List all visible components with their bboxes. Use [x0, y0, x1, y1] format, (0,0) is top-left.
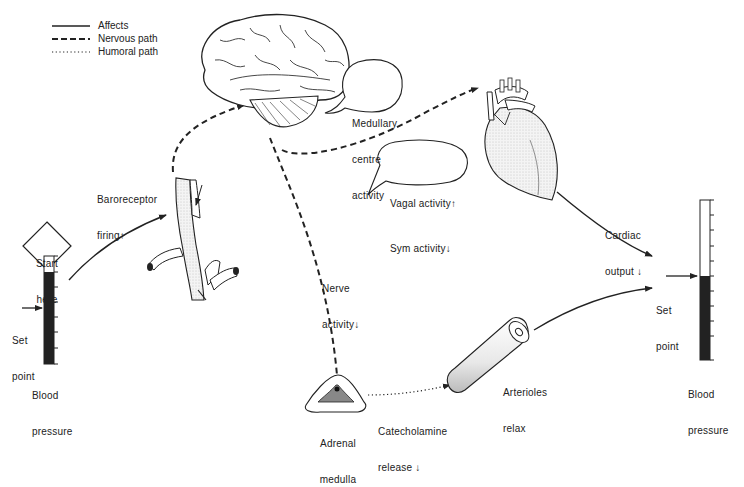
adrenal-medulla-label: Adrenal medulla	[312, 414, 364, 487]
sym-activity-text: Sym activity↓	[390, 241, 456, 256]
heart-illustration	[485, 78, 557, 200]
baroreceptor-line1: Baroreceptor	[97, 194, 157, 206]
cardiac-output-label: Cardiac output ↓	[605, 206, 642, 290]
arterioles-line2: relax	[503, 423, 547, 435]
nerve-line2: activity↓	[322, 319, 359, 331]
medullary-line2: centre	[352, 154, 397, 166]
medullary-line1: Medullary	[352, 118, 397, 130]
cardiac-line2: output ↓	[605, 266, 642, 278]
carotid-to-brain-nervous-path	[173, 105, 244, 172]
adrenal-gland-illustration	[305, 375, 365, 412]
set-point-line2: point	[656, 341, 679, 353]
baroreceptor-label: Baroreceptor firing↑	[97, 170, 157, 254]
start-label-line1: Start	[31, 258, 63, 270]
vagal-activity-text: Vagal activity↑	[390, 196, 456, 211]
adrenal-line1: Adrenal	[312, 438, 364, 450]
caption-line2: pressure	[688, 425, 729, 437]
caption-line2: pressure	[32, 426, 73, 438]
set-point-line1: Set	[12, 335, 35, 347]
baroreceptor-line2: firing↑	[97, 230, 157, 242]
catechol-line2: release ↓	[378, 462, 447, 474]
adrenal-line2: medulla	[312, 474, 364, 486]
vagal-sym-label: Vagal activity↑ Sym activity↓	[390, 166, 456, 271]
right-set-point-label: Set point	[656, 281, 679, 365]
carotid-artery-illustration	[147, 178, 239, 300]
arterioles-relax-label: Arterioles relax	[503, 363, 547, 447]
cardiac-line1: Cardiac	[605, 230, 642, 242]
nerve-line1: Nerve	[322, 283, 359, 295]
adrenal-to-arteriole-humoral-path	[368, 385, 450, 395]
catecholamine-release-label: Catecholamine release ↓	[378, 402, 447, 486]
arterioles-to-bp-arrow	[534, 288, 652, 330]
caption-line1: Blood	[688, 389, 729, 401]
right-blood-pressure-label: Blood pressure	[688, 365, 729, 449]
start-here-label: Start here	[31, 234, 63, 318]
set-point-line1: Set	[656, 305, 679, 317]
caption-line1: Blood	[32, 390, 73, 402]
catechol-line1: Catecholamine	[378, 426, 447, 438]
brain-illustration	[202, 15, 349, 127]
left-blood-pressure-label: Blood pressure	[32, 366, 73, 450]
arterioles-line1: Arterioles	[503, 387, 547, 399]
nerve-activity-label: Nerve activity↓	[322, 259, 359, 343]
start-label-line2: here	[31, 294, 63, 306]
